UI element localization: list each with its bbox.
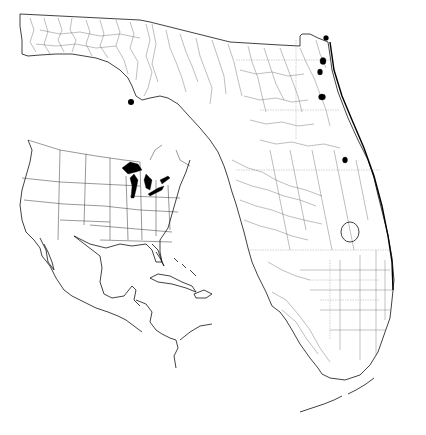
central-america [136, 300, 178, 368]
south-america [180, 324, 212, 340]
canada-border [28, 140, 140, 162]
florida-map [20, 14, 394, 412]
florida-keys [300, 396, 342, 412]
lake-okeechobee [341, 222, 359, 242]
panhandle-rivers [30, 18, 242, 104]
us-east-coast [160, 160, 190, 262]
mexico-outline [34, 240, 142, 332]
gulf-coast [74, 236, 162, 262]
atlantic-coast [330, 42, 393, 290]
central-florida-rivers [232, 150, 390, 250]
inset-map [20, 140, 212, 368]
map-figure [0, 0, 426, 435]
panhandle-point-marker [128, 99, 134, 105]
hispaniola [194, 290, 212, 298]
cuba [150, 274, 196, 292]
us-west-coast [20, 140, 34, 240]
map-canvas [0, 0, 426, 435]
baja-california [40, 238, 54, 270]
north-florida-rivers [236, 40, 340, 148]
us-state-boundaries [22, 145, 190, 242]
great-lakes [122, 162, 170, 198]
mexico-gulf-coast [74, 236, 140, 306]
bahamas [174, 258, 196, 276]
florida-keys-east [348, 378, 374, 394]
south-florida-canals [268, 250, 392, 362]
